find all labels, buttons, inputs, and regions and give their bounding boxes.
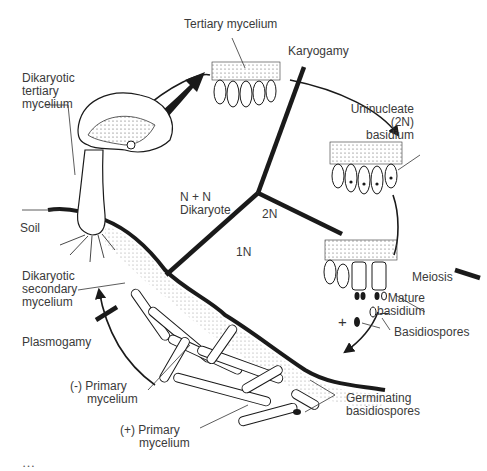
meiosis-tick bbox=[455, 270, 480, 278]
label-basidiospores: Basidiospores bbox=[394, 326, 469, 339]
label-meiosis: Meiosis bbox=[412, 271, 453, 284]
label-line: mycelium bbox=[22, 296, 73, 309]
label-1n-phase: 1N bbox=[236, 246, 251, 259]
plus-sign: + bbox=[338, 313, 347, 330]
label-line: mycelium bbox=[22, 98, 73, 111]
label-line: basidium bbox=[366, 129, 414, 142]
uninucleate-basidium-icon bbox=[330, 142, 402, 194]
minus-sign: – bbox=[380, 303, 388, 320]
tertiary-mycelium-icon bbox=[212, 62, 280, 107]
karyogamy-divider bbox=[258, 67, 304, 193]
label-karyogamy: Karyogamy bbox=[288, 45, 349, 58]
label-soil: Soil bbox=[20, 222, 40, 235]
label-line: mycelium bbox=[87, 393, 138, 406]
label-line: basidiospores bbox=[346, 405, 420, 418]
label-plasmogamy: Plasmogamy bbox=[22, 336, 91, 349]
label-line: mycelium bbox=[139, 437, 190, 450]
hyphae-network bbox=[130, 288, 321, 427]
basidiospore-plus bbox=[354, 317, 360, 327]
figure-caption-clipped: … bbox=[22, 455, 36, 471]
label-line: Dikaryote bbox=[180, 204, 231, 217]
germinating-spore-tip bbox=[293, 409, 301, 415]
label-tertiary-mycelium: Tertiary mycelium bbox=[184, 18, 277, 31]
arc-spores bbox=[345, 312, 378, 352]
label-2n-phase: 2N bbox=[262, 208, 277, 221]
